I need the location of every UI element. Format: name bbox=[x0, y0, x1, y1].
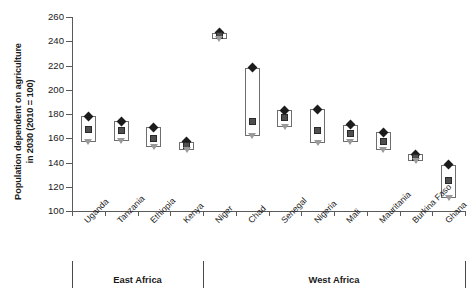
y-tick-label: 180 bbox=[32, 108, 64, 119]
min-marker-triangle bbox=[248, 133, 256, 139]
min-marker-triangle bbox=[379, 147, 387, 153]
y-tick-label: 200 bbox=[32, 84, 64, 95]
y-axis-title-line-1: Population dependent on agriculture bbox=[13, 22, 25, 222]
median-marker-square bbox=[118, 127, 125, 134]
min-marker-triangle bbox=[84, 139, 92, 145]
plot-area: 100120140160180200220240260 bbox=[72, 17, 465, 211]
chart-container: Population dependent on agriculture in 2… bbox=[0, 0, 472, 297]
min-marker-triangle bbox=[281, 124, 289, 130]
x-tick bbox=[400, 211, 401, 216]
median-marker-square bbox=[85, 126, 92, 133]
x-tick bbox=[138, 211, 139, 216]
y-tick-label: 160 bbox=[32, 132, 64, 143]
x-tick bbox=[432, 211, 433, 216]
box-range bbox=[245, 68, 260, 136]
median-marker-square bbox=[314, 127, 321, 134]
min-marker-triangle bbox=[183, 147, 191, 153]
x-tick bbox=[334, 211, 335, 216]
x-tick bbox=[269, 211, 270, 216]
min-marker-triangle bbox=[150, 144, 158, 150]
group-label: East Africa bbox=[72, 274, 203, 285]
y-tick-label: 120 bbox=[32, 181, 64, 192]
y-tick bbox=[66, 41, 72, 42]
median-marker-square bbox=[281, 114, 288, 121]
y-tick bbox=[66, 138, 72, 139]
x-tick bbox=[105, 211, 106, 216]
min-marker-triangle bbox=[314, 140, 322, 146]
y-tick bbox=[66, 17, 72, 18]
min-marker-triangle bbox=[412, 158, 420, 164]
x-tick bbox=[170, 211, 171, 216]
min-marker-triangle bbox=[346, 139, 354, 145]
y-tick-label: 140 bbox=[32, 157, 64, 168]
y-tick bbox=[66, 187, 72, 188]
x-tick bbox=[203, 211, 204, 216]
x-tick bbox=[465, 211, 466, 216]
y-tick-label: 100 bbox=[32, 205, 64, 216]
x-tick bbox=[301, 211, 302, 216]
median-marker-square bbox=[249, 118, 256, 125]
y-tick bbox=[66, 114, 72, 115]
y-tick bbox=[66, 66, 72, 67]
group-label: West Africa bbox=[203, 274, 465, 285]
min-marker-triangle bbox=[117, 138, 125, 144]
x-tick bbox=[236, 211, 237, 216]
y-tick bbox=[66, 163, 72, 164]
median-marker-square bbox=[347, 130, 354, 137]
y-tick bbox=[66, 90, 72, 91]
y-tick-label: 260 bbox=[32, 11, 64, 22]
median-marker-square bbox=[150, 135, 157, 142]
y-tick-label: 220 bbox=[32, 60, 64, 71]
y-tick-label: 240 bbox=[32, 35, 64, 46]
y-axis-line bbox=[72, 17, 73, 211]
x-tick bbox=[367, 211, 368, 216]
median-marker-square bbox=[380, 138, 387, 145]
x-tick bbox=[72, 211, 73, 216]
min-marker-triangle bbox=[215, 36, 223, 42]
group-separator bbox=[465, 261, 466, 288]
